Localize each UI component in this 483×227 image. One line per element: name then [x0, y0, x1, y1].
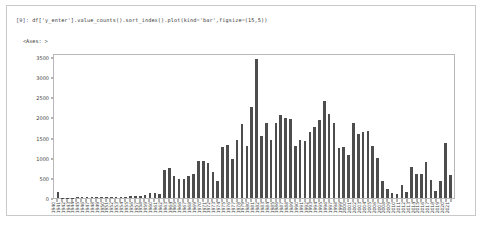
bar	[163, 170, 166, 198]
bar-series	[54, 55, 454, 198]
bar	[139, 196, 142, 198]
bar	[149, 193, 152, 198]
notebook-output-card: [9]: df['y_enter'].value_counts().sort_i…	[6, 5, 476, 216]
bar	[105, 197, 108, 198]
bar	[362, 132, 365, 198]
bar	[168, 168, 171, 198]
bar	[289, 119, 292, 198]
bar	[144, 195, 147, 198]
bar	[391, 193, 394, 198]
bar	[347, 155, 350, 198]
bar	[284, 118, 287, 198]
bar	[192, 174, 195, 198]
bar	[265, 123, 268, 198]
bar	[86, 197, 89, 198]
bar	[226, 145, 229, 198]
y-tick-label: 2500	[36, 95, 49, 101]
bar	[100, 197, 103, 198]
code-cell-source: df['y_enter'].value_counts().sort_index(…	[32, 17, 267, 23]
bar	[154, 193, 157, 198]
bar	[95, 197, 98, 198]
bar	[449, 175, 452, 198]
matplotlib-figure: 0500100015002000250030003500 19401941194…	[21, 50, 468, 212]
bar	[173, 176, 176, 198]
bar	[313, 127, 316, 199]
bar	[304, 141, 307, 198]
bar	[110, 197, 113, 198]
bar	[124, 197, 127, 198]
bar	[255, 59, 258, 198]
x-tick: 2021	[448, 199, 453, 212]
bar	[91, 197, 94, 198]
bar	[357, 134, 360, 198]
y-tick-label: 500	[39, 176, 49, 182]
x-tick-label: 2020	[440, 202, 445, 213]
bar	[376, 158, 379, 198]
bar	[444, 143, 447, 198]
bar	[275, 123, 278, 198]
bar	[294, 146, 297, 198]
code-cell-prompt: [9]:	[16, 17, 29, 23]
x-tick-label: 1970	[197, 202, 202, 213]
bar	[410, 167, 413, 198]
bar	[323, 101, 326, 198]
bar	[425, 162, 428, 198]
y-axis-ticks: 0500100015002000250030003500	[21, 54, 53, 199]
bar	[129, 196, 132, 198]
bar	[158, 194, 161, 198]
x-tick-label: 1977	[231, 202, 236, 213]
x-tick-label: 1949	[95, 202, 100, 213]
bar	[386, 189, 389, 198]
bar	[134, 196, 137, 198]
bar	[430, 180, 433, 198]
bar	[120, 197, 123, 198]
y-tick-label: 1500	[36, 136, 49, 142]
bar	[328, 114, 331, 198]
x-tick-label: 1956	[129, 202, 134, 213]
bar	[367, 131, 370, 198]
bar	[405, 192, 408, 198]
bar	[57, 192, 60, 198]
y-tick-label: 3500	[36, 55, 49, 61]
bar	[420, 174, 423, 198]
bar	[396, 194, 399, 198]
x-tick-label: 1963	[163, 202, 168, 213]
bar	[115, 197, 118, 198]
bar	[207, 163, 210, 198]
bar	[183, 179, 186, 198]
y-tick-label: 1000	[36, 156, 49, 162]
bar	[236, 140, 239, 198]
bar	[333, 123, 336, 198]
y-tick-label: 2000	[36, 115, 49, 121]
bar	[318, 120, 321, 198]
bar	[270, 140, 273, 198]
bar	[241, 124, 244, 198]
bar	[401, 185, 404, 198]
bar	[381, 181, 384, 198]
y-tick-label: 3000	[36, 75, 49, 81]
output-text: <Axes: >	[23, 37, 48, 46]
bar	[434, 191, 437, 198]
bar	[178, 179, 181, 198]
x-tick-label: 1991	[299, 202, 304, 213]
bar	[76, 197, 79, 198]
bar	[212, 172, 215, 198]
x-axis-ticks: 1940194119421943194419451946194719481949…	[53, 199, 455, 212]
bar	[197, 161, 200, 198]
bar	[279, 115, 282, 198]
x-tick-label: 2006	[372, 202, 377, 213]
bar	[81, 197, 84, 198]
x-tick-label: 1942	[61, 202, 66, 213]
bar	[309, 132, 312, 198]
x-tick-label: 2021	[445, 202, 450, 213]
code-cell[interactable]: [9]: df['y_enter'].value_counts().sort_i…	[16, 14, 468, 27]
bar	[250, 107, 253, 198]
plot-axes	[53, 54, 455, 199]
bar	[439, 181, 442, 198]
bar	[231, 159, 234, 198]
bar	[216, 181, 219, 198]
bar	[352, 123, 355, 198]
bar	[338, 148, 341, 198]
bar	[299, 140, 302, 198]
bar	[415, 174, 418, 198]
